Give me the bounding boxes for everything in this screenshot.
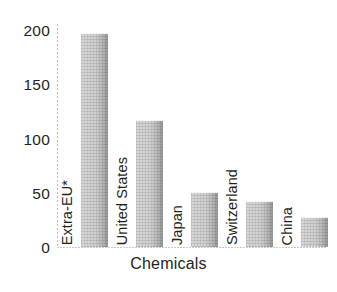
bar-switzerland[interactable] bbox=[246, 201, 273, 247]
y-tick-label-100: 100 bbox=[8, 132, 50, 148]
bar-group-china: China bbox=[278, 24, 330, 247]
y-tick-label-200: 200 bbox=[8, 23, 50, 39]
plot-area: Extra-EU* United States Japan Switzerlan… bbox=[58, 24, 327, 247]
bar-group-united-states: United States bbox=[113, 24, 165, 247]
y-tick-label-150: 150 bbox=[8, 77, 50, 93]
bar-japan[interactable] bbox=[191, 192, 218, 247]
bar-category-label-japan: Japan bbox=[170, 205, 185, 245]
y-tick-label-50: 50 bbox=[8, 186, 50, 202]
bar-group-extra-eu: Extra-EU* bbox=[58, 24, 110, 247]
bar-category-label-extra-eu: Extra-EU* bbox=[60, 180, 75, 245]
x-axis-title: Chemicals bbox=[0, 256, 337, 272]
bar-group-japan: Japan bbox=[168, 24, 220, 247]
bar-group-switzerland: Switzerland bbox=[223, 24, 275, 247]
bar-category-label-china: China bbox=[280, 207, 295, 245]
y-axis-tick-labels: 200 150 100 50 0 bbox=[8, 0, 50, 292]
bar-united-states[interactable] bbox=[136, 120, 163, 247]
bar-category-label-switzerland: Switzerland bbox=[225, 169, 240, 245]
x-axis-line bbox=[57, 247, 327, 248]
y-tick-label-0: 0 bbox=[8, 240, 50, 256]
bar-china[interactable] bbox=[301, 217, 328, 247]
bar-extra-eu[interactable] bbox=[81, 33, 108, 247]
bar-chart: 200 150 100 50 0 Extra-EU* United States… bbox=[0, 0, 337, 292]
bar-category-label-united-states: United States bbox=[115, 157, 130, 245]
